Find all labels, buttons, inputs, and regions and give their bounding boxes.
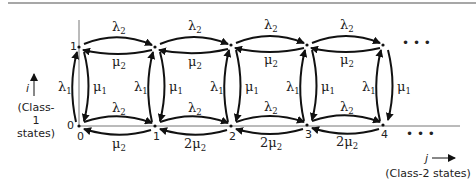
y-axis-caption-line2: states)	[14, 127, 58, 140]
svg-text:λ2: λ2	[188, 100, 202, 117]
svg-text:0: 0	[77, 130, 84, 143]
bottom-row-ellipsis: • • •	[406, 127, 435, 141]
svg-text:λ2: λ2	[188, 18, 202, 35]
svg-text:λ1: λ1	[210, 79, 224, 96]
x-axis-caption: (Class-2 states)	[380, 167, 476, 180]
svg-text:0: 0	[67, 119, 74, 132]
x-axis-indicator: j	[423, 152, 455, 165]
svg-text:μ2: μ2	[340, 52, 354, 69]
svg-text:2μ2: 2μ2	[260, 135, 282, 152]
svg-text:μ2: μ2	[264, 52, 278, 69]
svg-text:μ1: μ1	[93, 79, 107, 96]
svg-text:λ1: λ1	[58, 79, 72, 96]
svg-text:λ2: λ2	[340, 17, 354, 34]
svg-text:μ2: μ2	[112, 54, 126, 71]
svg-text:μ1: μ1	[169, 79, 183, 96]
svg-text:1: 1	[153, 130, 160, 143]
svg-text:μ1: μ1	[397, 79, 411, 96]
svg-text:λ2: λ2	[112, 19, 126, 36]
svg-text:μ1: μ1	[245, 79, 259, 96]
y-axis-caption-line1: (Class-1	[14, 101, 58, 127]
svg-text:λ2: λ2	[264, 99, 278, 116]
diagram-canvas: λ2 μ2 λ2 μ2 λ2 μ2 λ2 μ2 λ1 μ1 λ1 μ1 λ1 μ…	[0, 0, 476, 190]
svg-text:2μ2: 2μ2	[184, 136, 206, 153]
y-axis-indicator: i	[26, 74, 34, 96]
svg-text:μ2: μ2	[188, 54, 202, 71]
svg-text:λ2: λ2	[264, 17, 278, 34]
svg-text:i: i	[26, 82, 29, 95]
svg-text:4: 4	[381, 128, 388, 141]
svg-text:λ2: λ2	[340, 99, 354, 116]
svg-text:3: 3	[305, 128, 312, 141]
svg-text:2μ2: 2μ2	[336, 134, 358, 151]
svg-text:λ1: λ1	[134, 79, 148, 96]
y-axis-caption: (Class-1 states)	[14, 101, 58, 140]
vertical-labels: λ1 μ1 λ1 μ1 λ1 μ1 λ1 μ1 λ1 μ1	[58, 79, 411, 96]
svg-text:λ1: λ1	[286, 79, 300, 96]
svg-text:μ2: μ2	[112, 136, 126, 153]
state-transition-diagram: λ2 μ2 λ2 μ2 λ2 μ2 λ2 μ2 λ1 μ1 λ1 μ1 λ1 μ…	[0, 0, 476, 190]
svg-text:λ2: λ2	[112, 100, 126, 117]
svg-text:1: 1	[70, 40, 77, 53]
svg-text:j: j	[423, 152, 429, 165]
top-row-ellipsis: • • •	[402, 36, 431, 50]
svg-text:λ1: λ1	[362, 79, 376, 96]
svg-text:μ1: μ1	[321, 79, 335, 96]
svg-text:2: 2	[229, 130, 236, 143]
